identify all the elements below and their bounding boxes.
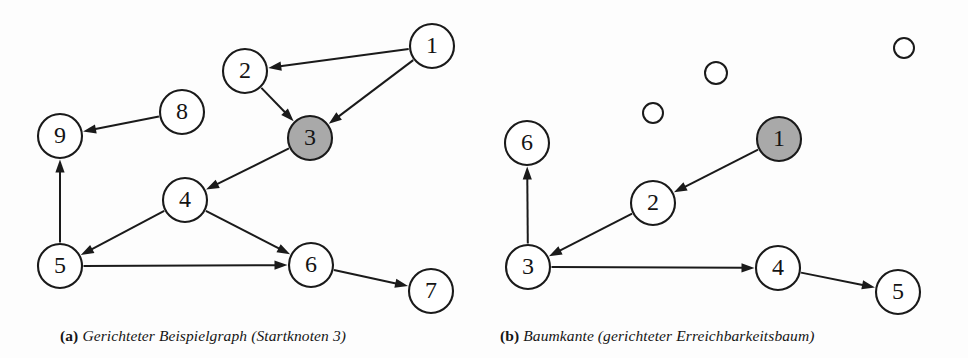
figure-root: 123894567123456 (a)Gerichteter Beispielg… [0, 0, 968, 358]
node-label: 3 [522, 253, 534, 279]
caption-a-tag: (a) [60, 327, 78, 344]
edge-line [527, 177, 528, 244]
edge-a5-to-a6 [84, 261, 288, 270]
edge-a1-to-a3 [329, 60, 413, 124]
caption-b-tag: (b) [500, 327, 519, 344]
node-label: 2 [647, 189, 659, 215]
graph-node-a3[interactable]: 3 [288, 116, 332, 160]
edge-a4-to-a5 [81, 211, 164, 255]
caption-a-text: Gerichteter Beispielgraph (Startknoten 3… [82, 327, 346, 344]
arrowhead-icon [329, 112, 342, 124]
arrowhead-icon [549, 246, 563, 256]
edge-line [206, 211, 281, 250]
graph-node-a2[interactable]: 2 [223, 49, 267, 93]
edge-line [84, 265, 278, 266]
graph-node-a7[interactable]: 7 [409, 269, 453, 313]
node-label: 4 [179, 186, 191, 212]
edge-a1-to-a2 [268, 49, 408, 71]
node-label: 1 [773, 125, 785, 151]
caption-b-text: Baumkante (gerichteter Erreichbarkeitsba… [523, 327, 814, 344]
graph-node-a6[interactable]: 6 [289, 243, 333, 287]
edge-line [552, 267, 745, 268]
node-label: 6 [305, 251, 317, 277]
arrowhead-icon [274, 261, 287, 270]
node-label: 8 [176, 98, 188, 124]
node-label: 5 [892, 278, 904, 304]
edge-a3-to-a4 [206, 148, 289, 189]
edge-b4-to-b5 [801, 273, 875, 290]
edge-line [558, 214, 632, 252]
arrowhead-icon [861, 280, 875, 289]
caption-panel-a: (a)Gerichteter Beispielgraph (Startknote… [60, 327, 346, 345]
node-label: 5 [54, 252, 66, 278]
edge-a4-to-a6 [206, 211, 290, 254]
graph-node-b5[interactable]: 5 [876, 270, 920, 314]
graph-node-a8[interactable]: 8 [160, 90, 204, 134]
graph-figure-canvas: 123894567123456 [0, 0, 968, 358]
graph-node-a5[interactable]: 5 [38, 244, 82, 288]
edge-line [278, 49, 409, 66]
graph-node-a9[interactable]: 9 [38, 114, 82, 158]
arrowhead-icon [523, 167, 532, 180]
graph-node-b6[interactable]: 6 [505, 121, 549, 165]
unreached-node-be3[interactable] [894, 38, 914, 58]
node-label: 6 [521, 129, 533, 155]
edge-line [683, 150, 758, 188]
node-label: 2 [239, 57, 251, 83]
graph-node-a4[interactable]: 4 [163, 178, 207, 222]
edge-b1-to-b2 [674, 150, 758, 193]
edge-line [93, 117, 159, 130]
edge-line [334, 270, 398, 284]
edge-line [215, 148, 289, 185]
node-label: 3 [304, 124, 316, 150]
arrowhead-icon [81, 245, 95, 255]
edge-a2-to-a3 [261, 88, 293, 121]
edge-a8-to-a9 [83, 117, 159, 134]
edge-line [337, 60, 413, 118]
arrowhead-icon [394, 279, 408, 288]
graph-node-b3[interactable]: 3 [506, 245, 550, 289]
graph-node-b4[interactable]: 4 [756, 246, 800, 290]
unreached-node-be2[interactable] [705, 62, 727, 84]
edge-b2-to-b3 [549, 214, 632, 257]
edge-b3-to-b4 [552, 263, 755, 272]
edges-layer [55, 49, 875, 289]
node-label: 7 [425, 277, 437, 303]
arrowhead-icon [276, 244, 290, 254]
arrowhead-icon [206, 180, 220, 190]
edge-a5-to-a9 [55, 160, 64, 243]
node-label: 4 [772, 254, 784, 280]
arrowhead-icon [83, 124, 97, 133]
graph-node-a1[interactable]: 1 [410, 24, 454, 68]
edge-line [261, 88, 286, 114]
edge-line [801, 273, 865, 286]
edge-b3-to-b6 [523, 167, 532, 244]
nodes-layer: 123894567123456 [38, 24, 920, 314]
arrowhead-icon [741, 263, 754, 272]
caption-panel-b: (b)Baumkante (gerichteter Erreichbarkeit… [500, 327, 815, 345]
graph-node-b2[interactable]: 2 [631, 181, 675, 225]
arrowhead-icon [268, 62, 282, 71]
node-label: 9 [54, 122, 66, 148]
arrowhead-icon [674, 182, 688, 192]
graph-node-b1[interactable]: 1 [757, 117, 801, 161]
unreached-node-be1[interactable] [643, 103, 663, 123]
arrowhead-icon [55, 160, 64, 173]
node-label: 1 [426, 32, 438, 58]
edge-a6-to-a7 [334, 270, 408, 288]
edge-line [90, 211, 165, 250]
